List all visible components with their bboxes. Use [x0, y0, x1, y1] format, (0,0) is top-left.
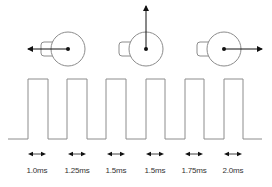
pulse-width-indicators	[28, 152, 242, 156]
pivot-dot	[144, 47, 148, 51]
pulse-label-6: 2.0ms	[213, 166, 253, 175]
double-arrow-icon	[28, 152, 46, 156]
double-arrow-icon	[146, 152, 164, 156]
servo-left	[28, 32, 85, 66]
servo-illustrations	[28, 6, 262, 66]
pwm-waveform	[8, 79, 262, 139]
pulse-label-5: 1.75ms	[174, 166, 214, 175]
pulse-label-4: 1.5ms	[135, 166, 175, 175]
pulse-label-1: 1.0ms	[17, 166, 57, 175]
servo-pwm-diagram	[0, 0, 272, 187]
pivot-dot	[222, 47, 226, 51]
double-arrow-icon	[185, 152, 203, 156]
double-arrow-icon	[107, 152, 125, 156]
servo-center	[119, 6, 163, 66]
double-arrow-icon	[68, 152, 86, 156]
servo-right	[197, 32, 262, 66]
double-arrow-icon	[224, 152, 242, 156]
pivot-dot	[66, 47, 70, 51]
pulse-label-2: 1.25ms	[57, 166, 97, 175]
pulse-label-3: 1.5ms	[96, 166, 136, 175]
